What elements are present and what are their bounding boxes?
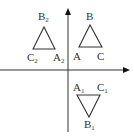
vertex-label-a: A bbox=[73, 50, 81, 62]
vertex-label-b2: B2 bbox=[38, 10, 49, 24]
vertex-label-a2: A2 bbox=[53, 51, 65, 65]
vertex-label-c: C bbox=[97, 50, 104, 62]
vertex-label-a1: A1 bbox=[73, 81, 85, 95]
vertex-label-c1: C1 bbox=[97, 81, 108, 95]
coordinate-diagram: BACB2C2A2A1C1B1 bbox=[0, 0, 134, 139]
triangle-a1b1c1 bbox=[77, 95, 100, 117]
triangle-abc bbox=[79, 25, 102, 47]
y-axis-arrow-icon bbox=[65, 8, 71, 15]
axes bbox=[0, 8, 130, 132]
diagram-canvas: BACB2C2A2A1C1B1 bbox=[0, 0, 134, 139]
x-axis-arrow-icon bbox=[123, 67, 130, 73]
vertex-label-b: B bbox=[86, 10, 93, 22]
vertex-label-b1: B1 bbox=[84, 118, 95, 132]
vertex-label-c2: C2 bbox=[27, 51, 38, 65]
triangle-a2b2c2 bbox=[33, 27, 55, 49]
